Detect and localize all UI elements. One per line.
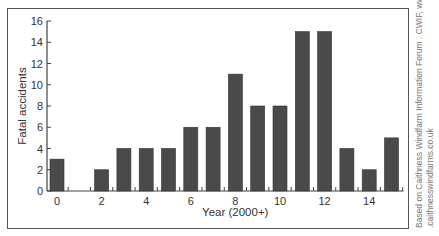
y-tick-label: 16 bbox=[31, 15, 43, 27]
bar bbox=[362, 170, 376, 191]
bar bbox=[385, 138, 399, 191]
bar bbox=[139, 149, 153, 192]
bar-chart: 024681012141602468101214Year (2000+)Fata… bbox=[0, 0, 439, 236]
y-tick-label: 10 bbox=[31, 79, 43, 91]
y-tick-label: 4 bbox=[37, 143, 43, 155]
x-tick-label: 4 bbox=[143, 195, 149, 207]
bar bbox=[117, 149, 131, 192]
x-tick-label: 14 bbox=[363, 195, 375, 207]
credit-line-1: Based on Caithness Windfarm Information … bbox=[414, 0, 425, 228]
source-credit: Based on Caithness Windfarm Information … bbox=[414, 0, 436, 228]
x-tick-label: 2 bbox=[99, 195, 105, 207]
bar bbox=[206, 127, 220, 191]
x-tick-label: 0 bbox=[54, 195, 60, 207]
y-tick-label: 12 bbox=[31, 58, 43, 70]
credit-line-2: .caithnesswindfarms.co.uk bbox=[425, 0, 436, 228]
x-tick-label: 6 bbox=[188, 195, 194, 207]
bar bbox=[295, 32, 309, 191]
bar bbox=[340, 149, 354, 192]
y-tick-label: 6 bbox=[37, 121, 43, 133]
bar bbox=[318, 32, 332, 191]
bar bbox=[273, 106, 287, 191]
x-axis-label: Year (2000+) bbox=[202, 206, 269, 218]
x-tick-label: 12 bbox=[318, 195, 330, 207]
bar bbox=[162, 149, 176, 192]
bar bbox=[228, 74, 242, 191]
bar bbox=[95, 170, 109, 191]
y-tick-label: 14 bbox=[31, 36, 43, 48]
y-tick-label: 2 bbox=[37, 164, 43, 176]
bar bbox=[184, 127, 198, 191]
y-axis-label: Fatal accidents bbox=[16, 67, 28, 145]
bar bbox=[50, 159, 64, 191]
y-tick-label: 0 bbox=[37, 185, 43, 197]
bar bbox=[251, 106, 265, 191]
x-tick-label: 10 bbox=[274, 195, 286, 207]
y-tick-label: 8 bbox=[37, 100, 43, 112]
